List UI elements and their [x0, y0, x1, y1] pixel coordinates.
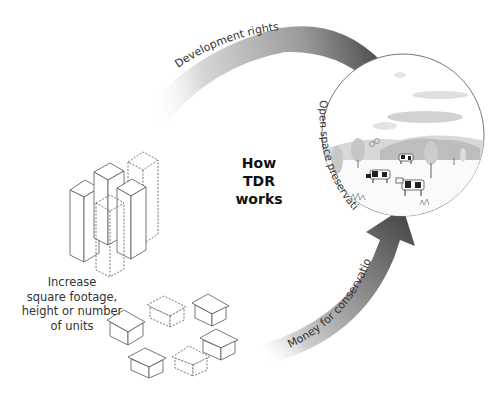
receiving-area-label: Increase square footage, height or numbe… [8, 275, 136, 333]
house [128, 348, 166, 378]
title-line-1: How [214, 154, 304, 172]
towers-illustration [70, 152, 158, 277]
diagram-title: How TDR works [214, 154, 304, 208]
house [192, 294, 229, 326]
label-line-2: square footage, [8, 290, 136, 305]
title-line-3: works [214, 190, 304, 208]
tdr-diagram: Development rights Money for conservatio… [0, 0, 496, 395]
title-line-2: TDR [214, 172, 304, 190]
label-line-4: of units [8, 319, 136, 334]
label-line-1: Increase [8, 275, 136, 290]
house-dashed [147, 296, 186, 327]
label-line-3: height or number [8, 304, 136, 319]
